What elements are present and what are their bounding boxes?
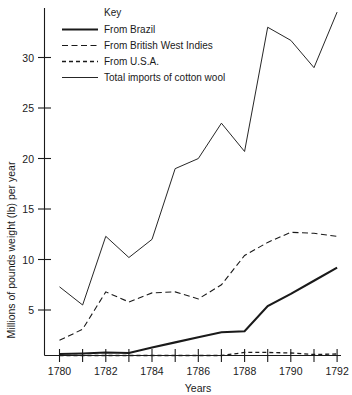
y-axis-tick-labels: 30 25 20 15 10 5 xyxy=(22,52,34,317)
legend: Key From Brazil From British West Indies… xyxy=(62,7,225,83)
legend-label-total-imports: Total imports of cotton wool xyxy=(104,72,225,83)
x-tick-label-1790: 1790 xyxy=(279,365,303,377)
x-axis-tick-labels: 1780 1782 1784 1786 1788 1790 1792 xyxy=(48,365,349,377)
series-line-british-west-indies xyxy=(60,232,338,340)
y-tick-label-15: 15 xyxy=(22,203,34,215)
series-line-total-imports xyxy=(60,12,338,305)
y-tick-label-30: 30 xyxy=(22,52,34,64)
legend-title: Key xyxy=(104,7,121,18)
x-tick-label-1786: 1786 xyxy=(187,365,211,377)
cotton-imports-line-chart: 30 25 20 15 10 5 Millions of pounds weig… xyxy=(0,0,352,395)
y-tick-label-25: 25 xyxy=(22,102,34,114)
legend-label-usa: From U.S.A. xyxy=(104,56,159,67)
series-group xyxy=(60,12,338,355)
x-tick-label-1788: 1788 xyxy=(233,365,257,377)
y-axis-title: Millions of pounds weight (lb) per year xyxy=(5,161,17,338)
legend-label-brazil: From Brazil xyxy=(104,24,155,35)
chart-svg: 30 25 20 15 10 5 Millions of pounds weig… xyxy=(0,0,352,395)
x-axis-title: Years xyxy=(185,382,211,394)
legend-label-british-west-indies: From British West Indies xyxy=(104,40,213,51)
x-tick-label-1782: 1782 xyxy=(94,365,118,377)
y-tick-label-20: 20 xyxy=(22,153,34,165)
series-line-brazil xyxy=(60,268,338,354)
y-tick-label-5: 5 xyxy=(28,304,34,316)
y-tick-label-10: 10 xyxy=(22,254,34,266)
x-tick-label-1792: 1792 xyxy=(325,365,349,377)
x-tick-label-1780: 1780 xyxy=(48,365,72,377)
x-tick-label-1784: 1784 xyxy=(140,365,164,377)
